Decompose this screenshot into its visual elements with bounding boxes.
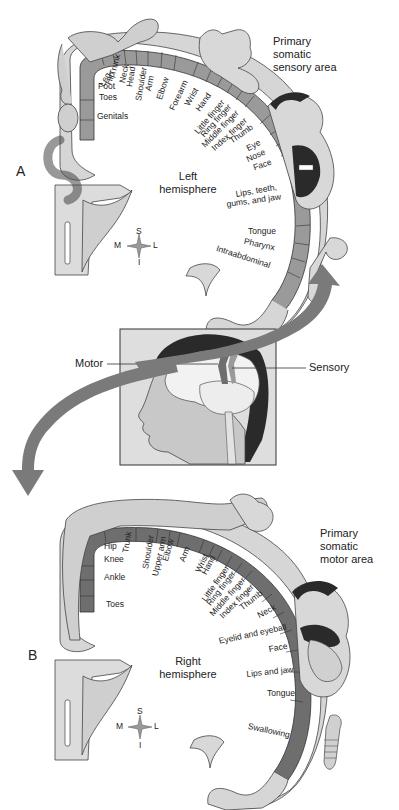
compass-inferior: I [138,257,140,267]
compass-superior: S [136,226,142,236]
compass-rose-b [128,715,152,739]
motor-homunculus [55,494,350,810]
compass-medial: M [114,240,121,250]
label-ankle: Ankle [104,573,125,582]
title-line: somatic [320,540,373,553]
label-toes: Toes [106,600,124,609]
hemisphere-line: Left [148,170,228,183]
label-tongue: Tongue [248,227,276,236]
brain-inset [107,329,306,465]
label-hip: Hip [104,542,117,551]
compass-inferior: I [139,740,141,750]
motor-area-title: Primary somatic motor area [320,527,373,566]
compass-medial: M [116,721,123,731]
title-line: Primary [320,527,373,540]
label-foot: Foot [98,82,115,91]
sensory-label: Sensory [309,361,349,374]
hemisphere-line: hemisphere [148,668,228,681]
title-line: Primary [273,35,337,48]
motor-label: Motor [75,357,103,370]
label-toes: Toes [99,93,117,102]
label-genitals: Genitals [97,112,128,121]
title-line: motor area [320,553,373,566]
title-line: somatic [273,48,337,61]
hemisphere-label-a: Left hemisphere [148,170,228,196]
sensory-area-title: Primary somatic sensory area [273,35,337,74]
compass-superior: S [137,706,143,716]
title-line: sensory area [273,61,337,74]
hemisphere-line: Right [148,655,228,668]
label-knee: Knee [104,555,124,564]
panel-letter-a: A [16,163,25,179]
hemisphere-line: hemisphere [148,183,228,196]
compass-lateral: L [153,240,158,250]
panel-letter-b: B [28,647,37,663]
hemisphere-label-b: Right hemisphere [148,655,228,681]
compass-rose-a [127,234,151,258]
compass-lateral: L [154,721,159,731]
label-tongue: Tongue [267,689,295,698]
